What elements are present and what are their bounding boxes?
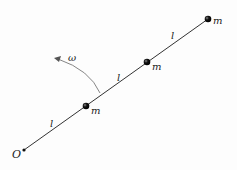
diagram-canvas: O m m m l l l ω (0, 0, 237, 170)
segment-2-label: l (117, 72, 120, 83)
pivot-point (22, 148, 25, 151)
mass-2 (144, 59, 151, 66)
mass-3 (205, 16, 212, 23)
rod (24, 19, 208, 150)
origin-label: O (12, 148, 21, 161)
mass-2-label: m (152, 61, 161, 72)
segment-1-label: l (50, 118, 53, 129)
arrowhead-icon (54, 56, 61, 62)
segment-3-label: l (171, 30, 174, 41)
omega-label: ω (68, 52, 76, 63)
rotating-rod-diagram: O m m m l l l ω (0, 0, 237, 170)
mass-3-label: m (213, 15, 222, 26)
mass-1-label: m (91, 105, 100, 116)
rotation-arc (58, 59, 100, 93)
mass-1 (83, 103, 90, 110)
